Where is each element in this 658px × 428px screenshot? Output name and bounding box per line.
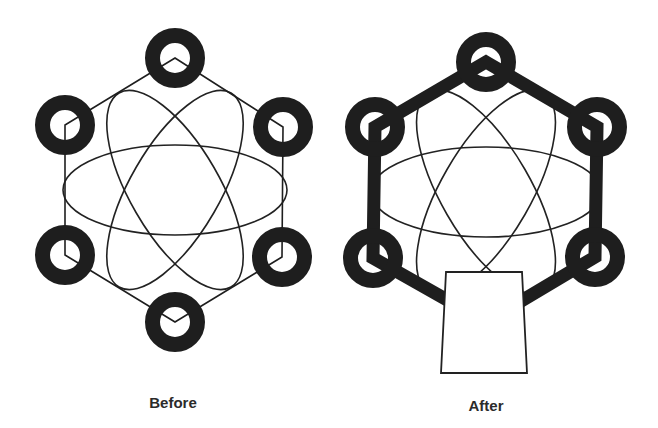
orbit-ellipse	[63, 145, 287, 235]
hexagon-frame	[65, 58, 283, 322]
after-label: After	[468, 397, 503, 414]
before-label: Before	[149, 394, 197, 411]
before-after-diagram	[0, 0, 658, 428]
before-panel	[43, 36, 306, 345]
trapezoid-box	[441, 272, 527, 373]
orbit-ellipse	[371, 147, 601, 237]
after-panel	[351, 40, 620, 374]
